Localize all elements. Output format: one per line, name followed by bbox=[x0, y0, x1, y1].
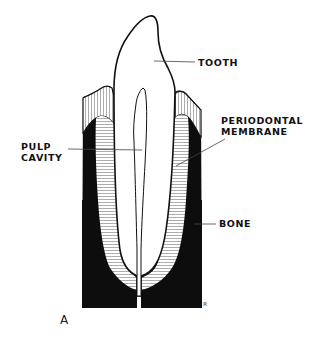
artist-mark: ʀ bbox=[203, 300, 207, 308]
label-periodontal-line1: PERIODONTAL bbox=[221, 115, 303, 126]
label-bone: BONE bbox=[219, 218, 251, 229]
label-pulp-cavity-line1: PULP bbox=[21, 141, 63, 152]
label-periodontal-membrane: PERIODONTAL MEMBRANE bbox=[221, 115, 303, 137]
label-tooth: TOOTH bbox=[198, 57, 238, 68]
label-pulp-cavity-line2: CAVITY bbox=[21, 152, 63, 163]
tooth-anatomy-diagram bbox=[0, 0, 314, 338]
label-pulp-cavity: PULP CAVITY bbox=[21, 141, 63, 163]
label-periodontal-line2: MEMBRANE bbox=[221, 126, 303, 137]
panel-letter: A bbox=[60, 313, 68, 327]
